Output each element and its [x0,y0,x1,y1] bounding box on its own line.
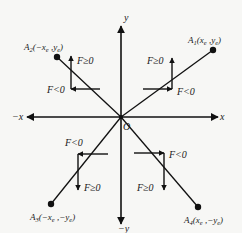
target-lines [51,50,213,207]
y-axis-label: y [123,12,129,23]
label-a3: A3(−xe ,−ye) [29,212,75,223]
neg-y-axis-label: −y [118,223,130,233]
point-a3 [48,201,54,207]
q1-f-ge-label: F≥0 [146,55,164,66]
neg-x-axis-label: −x [12,111,24,122]
q3-f-lt-label: F<0 [64,137,83,148]
origin-dot [119,115,123,119]
label-a4: A4(xe ,−ye) [183,215,223,226]
q4-f-lt-label: F<0 [168,149,187,160]
line-to-a4 [121,117,198,207]
point-a2 [54,54,60,60]
x-axis-label: x [219,111,225,122]
origin-label: O [123,121,130,132]
label-a1: A1(xe ,ye) [187,35,221,46]
q1-f-lt-label: F<0 [176,86,195,97]
q2-f-lt-label: F<0 [46,84,65,95]
q4-f-ge-label: F≥0 [136,182,154,193]
line-to-a1 [121,50,213,117]
line-to-a2 [57,57,121,117]
point-a1 [210,47,216,53]
q2-f-ge-label: F≥0 [76,55,94,66]
quadrant-interpolation-diagram: x −x y −y O A1(xe ,ye) A2(−xe ,ye) A3(−x… [0,0,242,233]
point-a4 [195,204,201,210]
q3-f-ge-label: F≥0 [83,182,101,193]
label-a2: A2(−xe ,ye) [23,42,63,53]
